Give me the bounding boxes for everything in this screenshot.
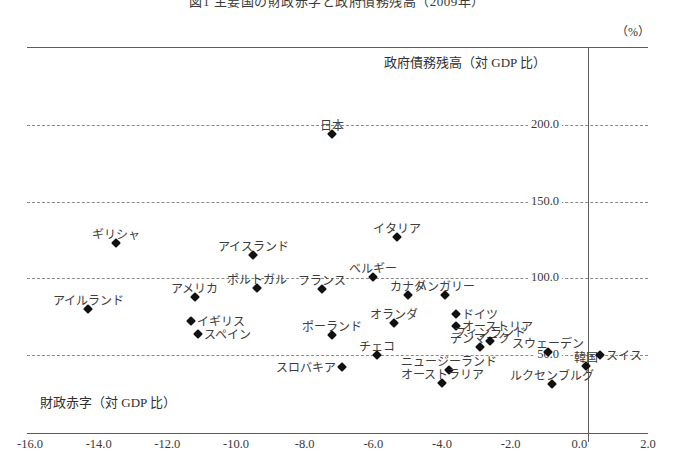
- data-point-label: アイルランド: [53, 291, 124, 309]
- x-tick-label: -12.0: [154, 437, 180, 452]
- unit-label: （%）: [616, 22, 650, 40]
- data-point-label: ギリシャ: [92, 225, 140, 243]
- x-tick-label: -6.0: [363, 437, 383, 452]
- data-point-marker: [186, 316, 196, 326]
- plot-top-border: [27, 47, 648, 48]
- data-point-label: フランス: [298, 271, 346, 289]
- figure-scatter-plot: 図1 主要国の財政赤字と政府債務残高（2009年） （%） 政府債務残高（対 G…: [0, 0, 674, 469]
- data-point-label: ハンガリー: [415, 277, 475, 295]
- x-tick-label: -14.0: [86, 437, 112, 452]
- x-tick-label: -8.0: [295, 437, 315, 452]
- y-tick-label: 150.0: [528, 194, 562, 209]
- x-tick-label: -2.0: [501, 437, 521, 452]
- data-point-label: オーストラリア: [401, 365, 484, 383]
- x-tick-label: 2.0: [640, 437, 656, 452]
- data-point-label: チェコ: [359, 337, 395, 355]
- x-tick-label: -4.0: [432, 437, 452, 452]
- data-point-label: オランダ: [370, 305, 418, 323]
- data-point-label: 日本: [320, 116, 344, 134]
- x-axis-zero-tick: [588, 434, 589, 442]
- y-tick-label: 100.0: [528, 270, 562, 285]
- data-point-label: スロバキア: [276, 358, 336, 376]
- x-tick-label: 0.0: [572, 437, 588, 452]
- y-tick-label: 200.0: [528, 117, 562, 132]
- data-point-label: スイス: [606, 346, 642, 364]
- data-point-label: ポーランド: [302, 317, 362, 335]
- y-axis-caption: 政府債務残高（対 GDP 比）: [384, 52, 546, 71]
- x-tick-label: -16.0: [17, 437, 43, 452]
- x-axis-caption: 財政赤字（対 GDP 比）: [40, 392, 176, 411]
- plot-bottom-border: [27, 433, 648, 434]
- data-point-label: イタリア: [373, 219, 421, 237]
- gridline-150.0: 150.0: [27, 202, 648, 203]
- data-point-label: ルクセンブルグ: [510, 366, 594, 384]
- data-point-marker: [337, 362, 347, 372]
- x-tick-label: -10.0: [223, 437, 249, 452]
- data-point-label: スペイン: [204, 325, 251, 343]
- gridline-50.0: 50.0: [27, 355, 648, 356]
- data-point-label: アイスランド: [218, 237, 289, 255]
- figure-title: 図1 主要国の財政赤字と政府債務残高（2009年）: [0, 0, 674, 10]
- data-point-label: 韓国: [574, 348, 598, 366]
- data-point-label: ポルトガル: [227, 270, 287, 288]
- data-point-marker: [451, 309, 461, 319]
- data-point-label: アメリカ: [171, 279, 218, 297]
- data-point-label: ベルギー: [349, 259, 397, 277]
